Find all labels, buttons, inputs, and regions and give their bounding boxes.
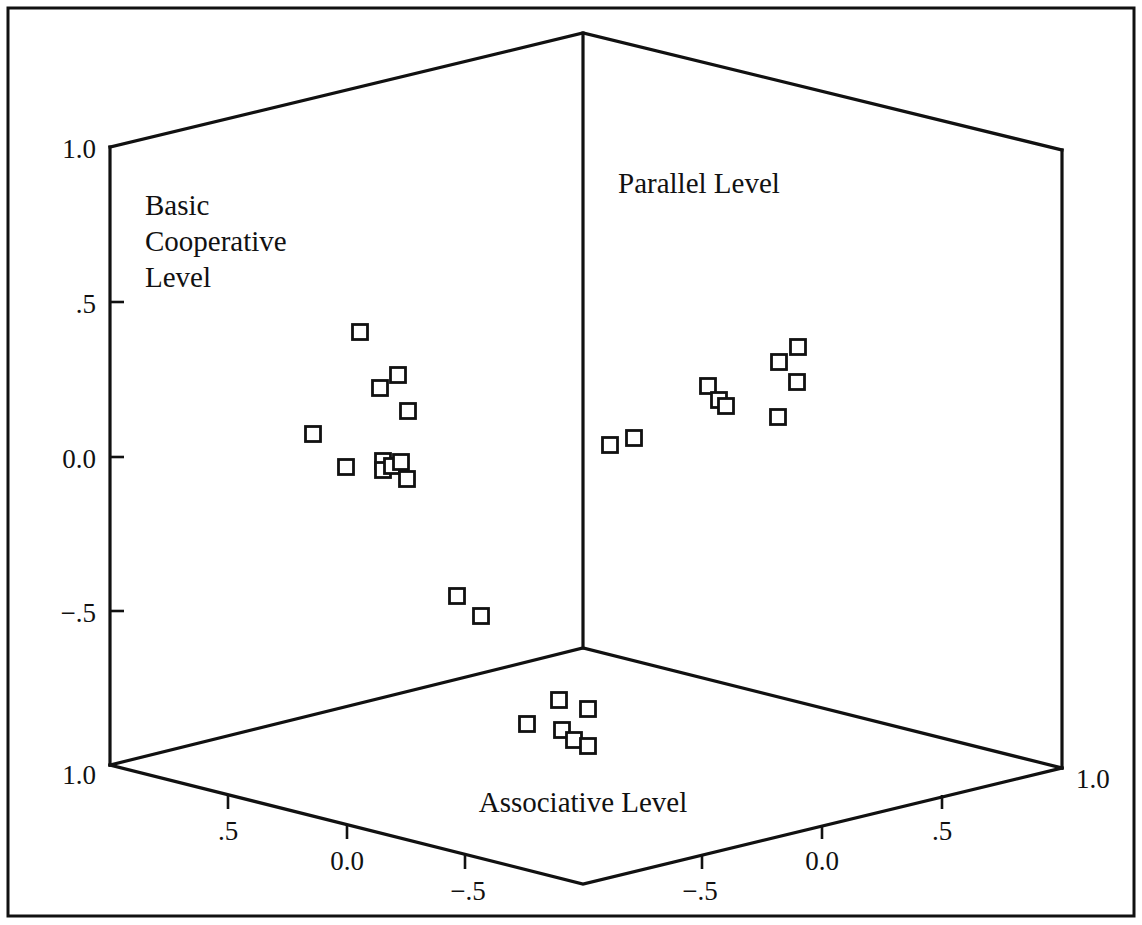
basic-cooperative-level-label-line2: Cooperative xyxy=(145,225,287,257)
data-point-marker xyxy=(772,355,787,370)
left-floor-tick-label-0.5: .5 xyxy=(218,816,238,846)
data-point-marker xyxy=(474,609,489,624)
data-point-marker xyxy=(450,589,465,604)
right-floor-tick-label-0.0: 0.0 xyxy=(805,846,839,876)
data-points-left-back-wall xyxy=(306,325,489,624)
box-floor-front-edges xyxy=(110,765,1062,884)
basic-cooperative-level-label-line3: Level xyxy=(145,261,211,293)
right-floor-tick-label-0.5: .5 xyxy=(932,816,952,846)
data-point-marker xyxy=(791,340,806,355)
data-point-marker xyxy=(627,431,642,446)
data-point-marker xyxy=(520,717,535,732)
box-top-back-edges xyxy=(110,33,1062,150)
data-point-marker xyxy=(339,460,354,475)
vertical-tick-label-2: .5 xyxy=(76,289,96,319)
data-point-marker xyxy=(394,455,409,470)
data-points-right-back-wall xyxy=(603,340,806,453)
right-floor-tick-label-1.0: 1.0 xyxy=(1076,764,1110,794)
data-point-marker xyxy=(353,325,368,340)
data-point-marker xyxy=(603,438,618,453)
data-point-marker xyxy=(552,693,567,708)
vertical-tick-label-4: −.5 xyxy=(61,598,96,628)
left-floor-tick-label-neg0.5: −.5 xyxy=(450,876,485,906)
data-point-marker xyxy=(373,381,388,396)
right-floor-tick-label-neg0.5: −.5 xyxy=(682,876,717,906)
associative-level-label: Associative Level xyxy=(479,786,688,818)
data-point-marker xyxy=(790,375,805,390)
data-point-marker xyxy=(391,368,406,383)
box-wireframe xyxy=(110,33,1062,884)
figure-3d-scatter-plot: 1.0 .5 0.0 −.5 1.0 .5 0.0 −.5 −.5 0.0 .5… xyxy=(0,0,1142,925)
data-point-marker xyxy=(400,472,415,487)
vertical-axis-ticks xyxy=(110,302,124,611)
data-point-marker xyxy=(771,410,786,425)
data-point-marker xyxy=(581,739,596,754)
data-point-marker xyxy=(581,702,596,717)
vertical-tick-label-3: 0.0 xyxy=(62,444,96,474)
figure-border xyxy=(8,8,1134,916)
left-floor-tick-label-0.0: 0.0 xyxy=(330,846,364,876)
data-points-floor xyxy=(520,693,596,754)
data-point-marker xyxy=(401,404,416,419)
data-point-marker xyxy=(306,427,321,442)
plot-canvas: 1.0 .5 0.0 −.5 1.0 .5 0.0 −.5 −.5 0.0 .5… xyxy=(0,0,1142,925)
parallel-level-label: Parallel Level xyxy=(618,167,780,199)
vertical-tick-label-1: 1.0 xyxy=(62,134,96,164)
data-point-marker xyxy=(719,399,734,414)
basic-cooperative-level-label-line1: Basic xyxy=(145,189,209,221)
vertical-axis-bottom-corner-label: 1.0 xyxy=(62,760,96,790)
